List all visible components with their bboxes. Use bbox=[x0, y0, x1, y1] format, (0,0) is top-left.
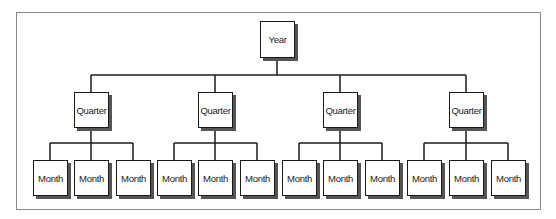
month-label: Month bbox=[79, 173, 104, 184]
quarter-node-1: Quarter bbox=[74, 92, 109, 128]
quarter-node-2: Quarter bbox=[198, 92, 233, 128]
month-label: Month bbox=[121, 173, 146, 184]
quarter-node-3: Quarter bbox=[323, 92, 358, 128]
month-label: Month bbox=[370, 173, 395, 184]
month-node: Month bbox=[74, 160, 109, 196]
year-label: Year bbox=[269, 34, 287, 45]
month-label: Month bbox=[245, 173, 270, 184]
year-node: Year bbox=[260, 21, 295, 58]
month-label: Month bbox=[162, 173, 187, 184]
month-node: Month bbox=[449, 160, 484, 196]
month-label: Month bbox=[412, 173, 437, 184]
month-label: Month bbox=[496, 173, 521, 184]
quarter-label: Quarter bbox=[325, 105, 355, 116]
month-node: Month bbox=[323, 160, 358, 196]
month-node: Month bbox=[240, 160, 275, 196]
month-label: Month bbox=[454, 173, 479, 184]
month-label: Month bbox=[38, 173, 63, 184]
quarter-label: Quarter bbox=[76, 105, 106, 116]
month-node: Month bbox=[33, 160, 68, 196]
month-label: Month bbox=[287, 173, 312, 184]
month-node: Month bbox=[282, 160, 317, 196]
month-label: Month bbox=[203, 173, 228, 184]
month-label: Month bbox=[328, 173, 353, 184]
month-node: Month bbox=[198, 160, 233, 196]
month-node: Month bbox=[116, 160, 151, 196]
month-node: Month bbox=[491, 160, 526, 196]
quarter-label: Quarter bbox=[200, 105, 230, 116]
month-node: Month bbox=[157, 160, 192, 196]
month-node: Month bbox=[407, 160, 442, 196]
month-node: Month bbox=[365, 160, 400, 196]
quarter-label: Quarter bbox=[451, 105, 481, 116]
quarter-node-4: Quarter bbox=[449, 92, 484, 128]
